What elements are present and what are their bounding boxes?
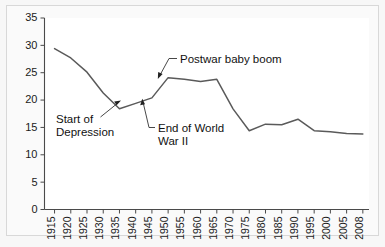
x-tick-label: 1965 <box>207 216 219 240</box>
y-axis-labels: 05101520253035 <box>25 11 37 215</box>
y-tick-label: 15 <box>25 121 37 133</box>
x-tick-label: 1935 <box>109 216 121 240</box>
x-tick-label: 1915 <box>45 216 57 240</box>
x-tick-label: 1995 <box>304 216 316 240</box>
x-tick-label: 1950 <box>158 216 170 240</box>
x-axis-labels: 1915192019251930193519401945195019551960… <box>45 216 365 240</box>
x-tick-label: 1985 <box>272 216 284 240</box>
annotation-depression-line1: Start of <box>56 113 94 125</box>
x-tick-label: 1940 <box>126 216 138 240</box>
x-tick-label: 1980 <box>255 216 267 240</box>
y-tick-label: 25 <box>25 66 37 78</box>
line-chart: 05101520253035 1915192019251930193519401… <box>0 0 385 247</box>
x-tick-label: 1930 <box>93 216 105 240</box>
x-tick-label: 1925 <box>77 216 89 240</box>
y-tick-label: 30 <box>25 39 37 51</box>
x-tick-label: 1975 <box>239 216 251 240</box>
x-tick-label: 1955 <box>174 216 186 240</box>
y-axis-ticks <box>41 18 45 210</box>
x-tick-label: 2008 <box>353 216 365 240</box>
x-tick-label: 1990 <box>288 216 300 240</box>
y-tick-label: 20 <box>25 93 37 105</box>
x-tick-label: 2000 <box>320 216 332 240</box>
x-tick-label: 1920 <box>61 216 73 240</box>
x-axis-ticks <box>55 210 363 214</box>
annotation-babyboom-line1: Postwar baby boom <box>180 53 282 65</box>
x-tick-label: 1970 <box>223 216 235 240</box>
annotation-wwii-line2: War II <box>158 135 188 147</box>
x-tick-label: 1945 <box>142 216 154 240</box>
y-tick-label: 0 <box>31 203 37 215</box>
y-tick-label: 35 <box>25 11 37 23</box>
annotation-depression-line2: Depression <box>56 126 114 138</box>
y-tick-label: 10 <box>25 148 37 160</box>
x-tick-label: 2005 <box>337 216 349 240</box>
annotation-wwii-line1: End of World <box>158 122 224 134</box>
y-tick-label: 5 <box>31 176 37 188</box>
chart-screenshot: 05101520253035 1915192019251930193519401… <box>0 0 385 247</box>
x-tick-label: 1960 <box>191 216 203 240</box>
